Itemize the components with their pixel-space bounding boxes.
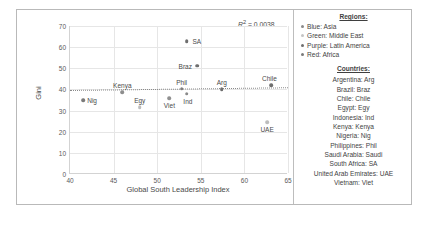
data-label-ind: Ind bbox=[183, 97, 192, 104]
legend-dot-icon bbox=[301, 34, 304, 37]
data-label-phil: Phil bbox=[176, 78, 187, 85]
legend-country-item: Philippines: Phil bbox=[297, 141, 410, 150]
legend-dot-icon bbox=[301, 25, 304, 28]
x-gridline bbox=[288, 26, 289, 173]
legend-country-item: Egypt: Egy bbox=[297, 103, 410, 112]
scatter-chart: R2 = 0.0038 404550556065010203040506070N… bbox=[16, 9, 294, 205]
data-label-chile: Chile bbox=[262, 75, 277, 82]
y-axis-tick: 50 bbox=[59, 65, 66, 72]
legend-country-item: Argentina: Arg bbox=[297, 75, 410, 84]
x-axis-tick: 55 bbox=[197, 177, 204, 184]
y-axis-tick: 10 bbox=[59, 149, 66, 156]
r2-exponent: 2 bbox=[243, 19, 246, 25]
legend-region-item: Purple: Latin America bbox=[301, 42, 410, 49]
legend-dot-icon bbox=[301, 44, 304, 47]
plot-area: 404550556065010203040506070NigKenyaEgyVi… bbox=[69, 26, 287, 174]
data-point-uae[interactable] bbox=[265, 120, 269, 124]
legend-region-label: Blue: Asia bbox=[307, 23, 336, 30]
data-point-phil[interactable] bbox=[180, 87, 184, 91]
y-axis-tick: 0 bbox=[62, 171, 66, 178]
data-point-chile[interactable] bbox=[270, 83, 274, 87]
legend-country-item: Nigeria: Nig bbox=[297, 131, 410, 140]
y-gridline bbox=[70, 26, 287, 27]
legend-country-item: United Arab Emirates: UAE bbox=[297, 169, 410, 178]
y-gridline bbox=[70, 132, 287, 133]
x-axis-tick: 45 bbox=[110, 177, 117, 184]
data-label-braz: Braz bbox=[179, 62, 192, 69]
legend-country-item: Indonesia: Ind bbox=[297, 113, 410, 122]
legend-region-label: Purple: Latin America bbox=[307, 42, 370, 49]
legend-country-item: Brazil: Braz bbox=[297, 85, 410, 94]
legend-country-item: Kenya: Kenya bbox=[297, 122, 410, 131]
legend-country-item: Chile: Chile bbox=[297, 94, 410, 103]
data-point-sa[interactable] bbox=[185, 39, 189, 43]
legend-country-item: Saudi Arabia: Saudi bbox=[297, 150, 410, 159]
data-point-nig[interactable] bbox=[81, 98, 85, 102]
legend-country-item: South Africa: SA bbox=[297, 159, 410, 168]
y-axis-label: Gini bbox=[34, 86, 43, 99]
y-gridline bbox=[70, 153, 287, 154]
data-label-egy: Egy bbox=[134, 97, 145, 104]
y-gridline bbox=[70, 47, 287, 48]
y-axis-tick: 40 bbox=[59, 86, 66, 93]
x-axis-tick: 60 bbox=[241, 177, 248, 184]
legend-dot-icon bbox=[301, 53, 304, 56]
data-label-nig: Nig bbox=[87, 97, 97, 104]
regions-heading: Regions: bbox=[297, 13, 410, 20]
regions-list: Blue: AsiaGreen: Middle EastPurple: Lati… bbox=[297, 23, 410, 58]
legend-region-item: Red: Africa bbox=[301, 51, 410, 58]
countries-list: Argentina: ArgBrazil: BrazChile: ChileEg… bbox=[297, 75, 410, 187]
data-label-kenya: Kenya bbox=[113, 82, 131, 89]
legend-region-item: Blue: Asia bbox=[301, 23, 410, 30]
countries-heading: Countries: bbox=[297, 65, 410, 72]
data-label-viet: Viet bbox=[164, 102, 175, 109]
data-label-uae: UAE bbox=[260, 125, 273, 132]
legend-region-label: Green: Middle East bbox=[307, 32, 363, 39]
data-point-ind[interactable] bbox=[185, 92, 189, 96]
legend-region-item: Green: Middle East bbox=[301, 32, 410, 39]
y-axis-tick: 20 bbox=[59, 128, 66, 135]
data-point-egy[interactable] bbox=[138, 106, 142, 110]
data-point-braz[interactable] bbox=[196, 64, 200, 68]
y-gridline bbox=[70, 111, 287, 112]
legend-panel: Regions: Blue: AsiaGreen: Middle EastPur… bbox=[297, 13, 410, 187]
legend-region-label: Red: Africa bbox=[307, 51, 339, 58]
data-point-arg[interactable] bbox=[220, 88, 224, 92]
data-label-sa: SA bbox=[193, 38, 202, 45]
legend-country-item: Vietnam: Viet bbox=[297, 178, 410, 187]
data-point-viet[interactable] bbox=[168, 97, 172, 101]
x-axis-tick: 65 bbox=[284, 177, 291, 184]
x-axis-tick: 50 bbox=[154, 177, 161, 184]
data-point-kenya[interactable] bbox=[121, 90, 125, 94]
y-axis-tick: 30 bbox=[59, 107, 66, 114]
x-axis-tick: 40 bbox=[66, 177, 73, 184]
data-label-arg: Arg bbox=[217, 79, 227, 86]
x-axis-label: Global South Leadership Index bbox=[69, 185, 287, 194]
y-axis-tick: 60 bbox=[59, 44, 66, 51]
y-axis-tick: 70 bbox=[59, 23, 66, 30]
